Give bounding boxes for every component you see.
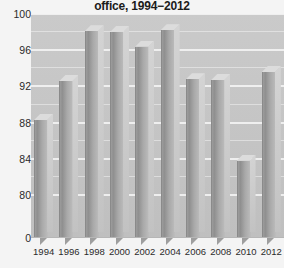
x-axis-tick-mark xyxy=(217,238,224,245)
x-axis-tick-label: 2010 xyxy=(235,246,256,257)
x-axis-tick-label: 2004 xyxy=(160,246,181,257)
x-axis-tick-mark xyxy=(90,238,97,245)
y-axis: 10096928884800 xyxy=(0,14,31,244)
x-axis-tick-label: 2012 xyxy=(261,246,282,257)
bar xyxy=(135,41,154,238)
x-axis-tick-mark xyxy=(40,238,47,245)
x-axis-tick-label: 1996 xyxy=(58,246,79,257)
bar-chart: office, 1994−2012 10096928884800 1994199… xyxy=(0,0,284,268)
bar-side-face xyxy=(98,25,104,232)
y-axis-tick-label: 80 xyxy=(2,189,31,201)
bar-side-face xyxy=(250,155,256,232)
minor-gridline xyxy=(31,67,284,68)
bar-side-face xyxy=(148,41,154,232)
x-axis-tick-label: 1994 xyxy=(33,246,54,257)
x-axis-tick-mark xyxy=(141,238,148,245)
x-axis-tick-label: 2000 xyxy=(109,246,130,257)
bar xyxy=(110,26,129,238)
y-axis-tick-label: 88 xyxy=(2,117,31,129)
bar-front-face xyxy=(110,32,124,238)
bar-front-face xyxy=(85,31,99,238)
bar xyxy=(59,75,78,238)
y-axis-tick-label: 0 xyxy=(2,232,31,244)
bar xyxy=(211,74,230,238)
x-axis-tick-mark xyxy=(242,238,249,245)
plot-area xyxy=(31,14,284,238)
x-axis-tick-mark xyxy=(267,238,274,245)
bar-front-face xyxy=(211,80,225,238)
gridline xyxy=(31,14,284,15)
bar-front-face xyxy=(237,161,251,238)
bar-front-face xyxy=(34,120,48,238)
y-axis-tick-label: 92 xyxy=(2,80,31,92)
bar-front-face xyxy=(59,81,73,238)
x-axis-tick-label: 2008 xyxy=(210,246,231,257)
x-axis-tick-label: 2002 xyxy=(134,246,155,257)
bar-side-face xyxy=(275,66,281,232)
bar-front-face xyxy=(186,79,200,238)
x-axis-tick-label: 2006 xyxy=(185,246,206,257)
bar xyxy=(237,155,256,238)
bar-front-face xyxy=(262,72,276,238)
x-axis-tick-mark xyxy=(191,238,198,245)
bar-side-face xyxy=(47,114,53,232)
x-axis-tick-mark xyxy=(166,238,173,245)
x-axis-tick-label: 1998 xyxy=(84,246,105,257)
bar xyxy=(186,73,205,238)
gridline xyxy=(31,49,284,51)
bar-front-face xyxy=(161,30,175,238)
bar-side-face xyxy=(224,74,230,232)
chart-title: office, 1994−2012 xyxy=(0,0,284,13)
bar-front-face xyxy=(135,47,149,238)
bar-side-face xyxy=(123,26,129,232)
bar xyxy=(262,66,281,238)
bar-side-face xyxy=(174,24,180,232)
y-axis-tick-label: 84 xyxy=(2,153,31,165)
x-axis: 1994199619982000200220042006200820102012 xyxy=(31,238,284,268)
bar xyxy=(161,24,180,238)
bar-side-face xyxy=(72,75,78,232)
bar xyxy=(85,25,104,238)
bar xyxy=(34,114,53,238)
y-axis-tick-label: 96 xyxy=(2,44,31,56)
x-axis-tick-mark xyxy=(116,238,123,245)
minor-gridline xyxy=(31,31,284,32)
bar-side-face xyxy=(199,73,205,232)
x-axis-tick-mark xyxy=(65,238,72,245)
y-axis-tick-label: 100 xyxy=(2,8,31,20)
